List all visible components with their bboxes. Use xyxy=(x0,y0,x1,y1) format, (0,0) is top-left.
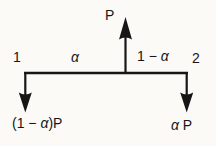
node-2-label: 2 xyxy=(192,51,200,65)
left-reaction-arrow-down xyxy=(19,72,32,113)
applied-force-label: P xyxy=(105,8,114,22)
span-left-alpha-label: α xyxy=(71,50,79,64)
span-right-label-pre: 1 − xyxy=(137,48,161,64)
right-reaction-arrowhead xyxy=(180,93,193,113)
span-right-label: 1 − α xyxy=(137,49,169,63)
right-reaction-label-post: P xyxy=(179,117,192,133)
applied-force-arrow-up xyxy=(119,17,132,73)
left-reaction-label: (1 − α)P xyxy=(12,116,62,130)
left-reaction-label-pre: (1 − xyxy=(12,115,40,131)
span-right-label-alpha: α xyxy=(161,48,169,64)
left-reaction-label-post: )P xyxy=(48,115,62,131)
node-1-label: 1 xyxy=(13,50,21,64)
left-reaction-arrowhead xyxy=(19,93,32,113)
right-reaction-label-alpha: α xyxy=(171,117,179,133)
right-reaction-arrow-down xyxy=(180,72,193,113)
beam-load-diagram: P 1 α 1 − α 2 (1 − α)P α P xyxy=(0,0,216,146)
right-reaction-label: α P xyxy=(171,118,192,132)
applied-force-arrowhead xyxy=(119,17,132,40)
